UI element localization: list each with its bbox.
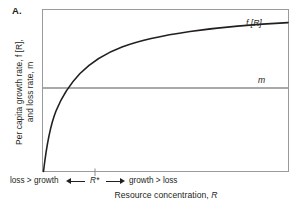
x-axis-title-text: Resource concentration, R	[114, 190, 217, 200]
plot-frame	[43, 10, 289, 172]
growth-rate-curve	[44, 23, 289, 172]
arrow-right-shaft	[106, 181, 121, 182]
r-star-label: R*	[90, 175, 99, 187]
region-label-loss-greater-growth: loss > growth	[10, 175, 58, 187]
region-annotation-row: loss > growth R* growth > loss	[10, 175, 300, 187]
x-axis-title: Resource concentration, R	[42, 191, 290, 200]
figure-panel-a: A. Per capita growth rate, f [R], and lo…	[0, 0, 304, 209]
arrow-right-icon	[120, 178, 125, 184]
curve-label-fr: f [R]	[246, 19, 262, 28]
arrow-left-shaft	[70, 181, 85, 182]
region-label-growth-greater-loss: growth > loss	[129, 175, 177, 187]
x-axis-variable-symbol: R	[211, 190, 217, 200]
loss-line-label-m: m	[258, 76, 265, 85]
